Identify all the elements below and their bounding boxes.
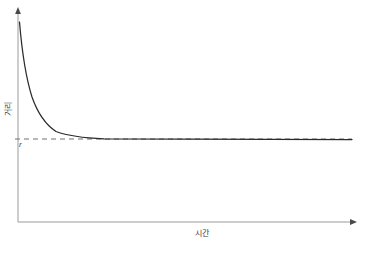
x-axis [18,219,357,225]
x-axis-arrowhead [350,219,357,225]
y-axis-label: 거리 [2,96,13,122]
x-axis-label: 시간 [172,227,232,238]
y-axis-arrowhead [15,7,21,14]
decay-curve [20,22,353,140]
chart-canvas [0,0,370,254]
y-axis [15,7,21,222]
chart-figure: 거리 시간 r [0,0,370,254]
asymptote-label: r [19,140,22,149]
